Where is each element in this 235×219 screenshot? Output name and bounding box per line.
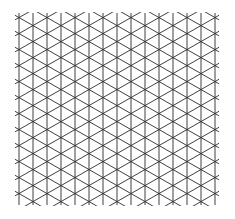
grid-line: [9, 0, 225, 7]
isometric-grid: [0, 0, 235, 219]
grid-line: [9, 204, 225, 219]
grid-line: [9, 0, 225, 7]
grid-line: [9, 204, 225, 219]
